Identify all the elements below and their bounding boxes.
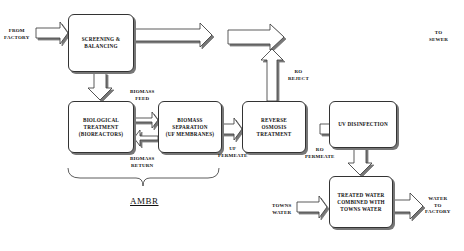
- label-from-factory: FROM FACTORY: [4, 28, 30, 41]
- arrow-uv-down: [348, 147, 372, 175]
- arrow-biomass-feed: [134, 112, 158, 128]
- label-uf-permeate: UF PERMEATE: [218, 146, 248, 159]
- arrow-screening-to-junction: [133, 23, 212, 47]
- arrow-biomass-return: [134, 130, 158, 146]
- arrow-ro-reject: [261, 49, 283, 101]
- node-reverse-osmosis: REVERSE OSMOSIS TREATMENT: [242, 101, 306, 153]
- node-biological-treatment: BIOLOGICAL TREATMENT (BIOREACTORS): [68, 101, 134, 153]
- label-towns-water: TOWNS WATER: [272, 203, 292, 216]
- label-ambr-group: AMBR: [130, 196, 159, 206]
- node-treated-water-combined: TREATED WATER COMBINED WITH TOWNS WATER: [329, 176, 393, 228]
- arrow-water-to-factory: [392, 193, 423, 219]
- label-ro-reject: RO REJECT: [288, 69, 309, 82]
- arrow-uf-permeate: [222, 118, 242, 140]
- arrow-from-factory: [36, 22, 68, 44]
- node-biomass-separation: BIOMASS SEPARATION (UF MEMBRANES): [158, 101, 222, 153]
- node-uv-disinfection: UV DISINFECTION: [329, 101, 397, 148]
- arrow-to-sewer: [228, 24, 284, 50]
- arrow-towns-water: [297, 196, 327, 218]
- node-screening-balancing: SCREENING & BALANCING: [68, 14, 134, 72]
- label-biomass-return: BIOMASS RETURN: [130, 156, 154, 169]
- label-biomass-feed: BIOMASS FEED: [130, 89, 154, 102]
- label-water-to-factory: WATER TO FACTORY: [425, 196, 451, 216]
- label-to-sewer: TO SEWER: [429, 30, 448, 43]
- label-ro-permeate: RO PERMEATE: [305, 147, 335, 160]
- ambr-brace: [68, 168, 219, 186]
- arrow-screening-down: [88, 73, 112, 100]
